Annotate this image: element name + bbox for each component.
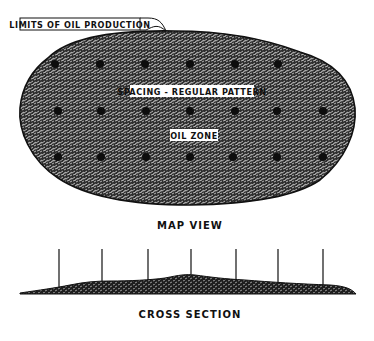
cross-section: CROSS SECTION: [20, 249, 356, 320]
reservoir-profile: [20, 275, 356, 294]
oil-zone-boundary: [20, 31, 355, 205]
cross-section-caption: CROSS SECTION: [139, 309, 242, 320]
oil-field-diagram: SPACING - REGULAR PATTERN OIL ZONE LIMIT…: [0, 0, 374, 341]
zone-label: OIL ZONE: [170, 131, 218, 141]
limits-callout: LIMITS OF OIL PRODUCTION: [9, 18, 166, 31]
map-view: SPACING - REGULAR PATTERN OIL ZONE LIMIT…: [9, 18, 355, 231]
pattern-label: SPACING - REGULAR PATTERN: [117, 87, 267, 97]
map-view-caption: MAP VIEW: [157, 220, 223, 231]
callout-label: LIMITS OF OIL PRODUCTION: [9, 20, 150, 30]
